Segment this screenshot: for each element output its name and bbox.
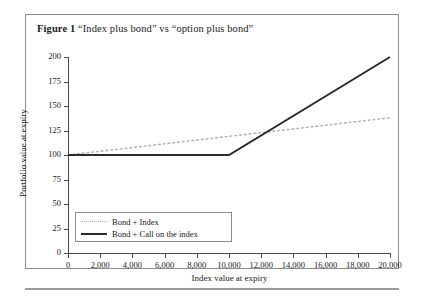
figure-caption: Figure 1 “Index plus bond” vs “option pl… <box>37 23 253 34</box>
legend-swatch-dotted-icon <box>81 219 107 225</box>
legend-item-bond-call: Bond + Call on the index <box>81 228 226 239</box>
page-horizontal-rule <box>25 288 399 290</box>
figure-caption-label: Figure 1 <box>37 23 75 34</box>
chart-legend: Bond + Index Bond + Call on the index <box>75 212 232 242</box>
legend-swatch-solid-icon <box>81 231 107 237</box>
legend-label: Bond + Index <box>112 217 159 227</box>
figure-page: Figure 1 “Index plus bond” vs “option pl… <box>0 0 425 305</box>
x-axis-title: Index value at expiry <box>68 273 391 283</box>
legend-item-bond-index: Bond + Index <box>81 216 226 227</box>
legend-label: Bond + Call on the index <box>112 229 198 239</box>
figure-caption-text: “Index plus bond” vs “option plus bond” <box>78 23 253 34</box>
